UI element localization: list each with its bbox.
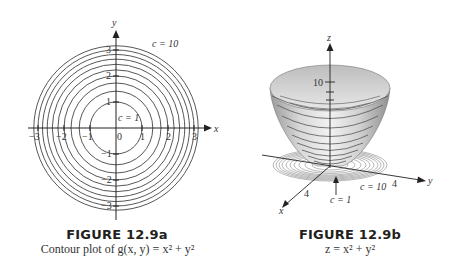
figure-b-caption: z = x² + y² (300, 242, 400, 257)
svg-text:3: 3 (192, 131, 197, 142)
x-tick-labels: −3 −2 −1 0 1 2 3 (29, 131, 197, 142)
surface-label-c10: c = 10 (360, 181, 386, 192)
x3d-axis-label: x (278, 205, 284, 216)
x3d-tick-4: 4 (304, 188, 309, 199)
svg-text:1: 1 (140, 131, 145, 142)
svg-text:−3: −3 (29, 131, 40, 142)
svg-text:−2: −2 (101, 174, 112, 185)
contour-label-c1: c = 1 (118, 112, 139, 123)
y-axis-label: y (111, 17, 117, 28)
y3d-tick-4: 4 (392, 178, 397, 189)
y3d-axis-arrow-icon (417, 177, 426, 184)
z-axis-label: z (326, 32, 331, 43)
svg-text:0: 0 (117, 131, 122, 142)
figure-a-caption: Contour plot of g(x, y) = x² + y² (30, 242, 205, 257)
svg-text:3: 3 (106, 44, 111, 55)
x-axis-label: x (213, 123, 219, 134)
svg-text:−3: −3 (101, 200, 112, 211)
surface-label-c1: c = 1 (330, 194, 351, 205)
svg-text:−2: −2 (56, 131, 67, 142)
svg-text:−1: −1 (82, 131, 93, 142)
y-axis-arrow-icon (113, 30, 120, 38)
figure-b-title: FIGURE 12.9b (290, 227, 410, 242)
z-axis-arrow-icon (327, 43, 334, 51)
contour-label-c10: c = 10 (152, 38, 178, 49)
svg-text:1: 1 (106, 96, 111, 107)
svg-text:−1: −1 (101, 148, 112, 159)
svg-text:2: 2 (166, 131, 171, 142)
figure-a-title: FIGURE 12.9a (40, 227, 194, 242)
svg-text:2: 2 (106, 70, 111, 81)
y3d-axis-label: y (427, 175, 433, 186)
z-tick-10: 10 (313, 77, 323, 88)
x-axis-arrow-icon (204, 125, 212, 132)
